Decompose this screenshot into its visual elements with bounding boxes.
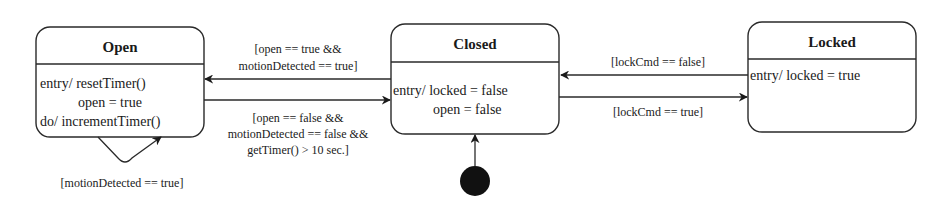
state-locked-action: entry/ locked = true [750, 68, 860, 83]
state-open-action: entry/ resetTimer() [40, 76, 146, 92]
guard-open-to-closed: motionDetected == false && [228, 127, 369, 141]
guard-closed-to-open: [open == true && [254, 42, 342, 56]
guard-locked-to-closed: [lockCmd == false] [611, 55, 705, 69]
initial-state-dot [460, 166, 490, 196]
state-diagram: Open entry/ resetTimer() open = true do/… [0, 0, 951, 210]
guard-open-to-closed: [open == false && [252, 111, 344, 125]
state-closed-title: Closed [453, 36, 497, 52]
guard-closed-to-open: motionDetected == true] [239, 59, 358, 73]
state-open-title: Open [102, 39, 138, 55]
state-locked: Locked entry/ locked = true [748, 22, 916, 132]
transition-open-self-loop [98, 137, 161, 162]
state-open: Open entry/ resetTimer() open = true do/… [36, 27, 204, 137]
guard-closed-to-locked: [lockCmd == true] [613, 105, 703, 119]
guard-open-to-closed: getTimer() > 10 sec.] [247, 143, 349, 157]
state-open-action: open = true [78, 95, 142, 110]
guard-open-self-loop: [motionDetected == true] [61, 176, 184, 190]
state-closed-action: open = false [433, 102, 502, 117]
state-closed: Closed entry/ locked = false open = fals… [391, 24, 559, 134]
state-closed-action: entry/ locked = false [393, 83, 508, 98]
state-open-action: do/ incrementTimer() [40, 114, 161, 130]
state-locked-title: Locked [808, 34, 856, 50]
